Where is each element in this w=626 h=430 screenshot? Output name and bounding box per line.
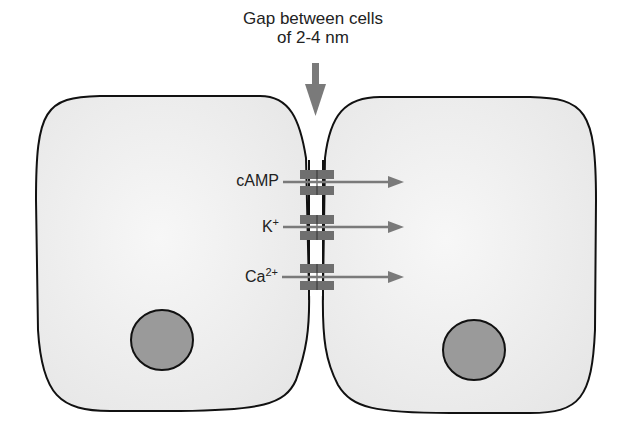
gap-indicator-arrow-icon — [305, 63, 326, 116]
label-potassium: K+ — [199, 218, 279, 236]
gap-junction-diagram — [0, 0, 626, 430]
label-camp: cAMP — [199, 172, 279, 190]
title-line-1: Gap between cells — [0, 9, 626, 28]
label-calcium: Ca2+ — [198, 268, 278, 286]
right-nucleus — [443, 320, 505, 380]
title-line-2: of 2-4 nm — [0, 28, 626, 47]
left-nucleus — [131, 310, 193, 370]
